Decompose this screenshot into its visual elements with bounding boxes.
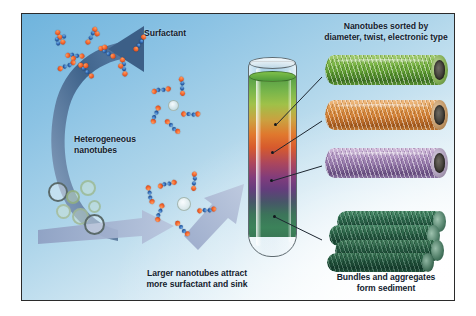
leader-orange [273,121,322,153]
label-bundles-sediment: Bundles and aggregates form sediment [320,272,452,293]
purple-nanotube [325,148,447,178]
nanotube-bundle [325,211,450,273]
label-sorted-nanotubes: Nanotubes sorted by diameter, twist, ele… [318,21,454,42]
label-surfactant: Surfactant [144,28,186,39]
leader-green [276,77,322,125]
figure-panel: Surfactant Heterogeneous nanotubes Large… [21,13,455,301]
label-larger-nanotubes: Larger nanotubes attract more surfactant… [122,268,272,289]
orange-nanotube [325,100,447,130]
green-nanotube [325,55,447,85]
bundle-nanotube [327,253,433,272]
label-heterogeneous-nanotubes: Heterogeneous nanotubes [74,134,136,155]
leader-sediment [275,217,322,240]
leader-purple [272,166,322,181]
